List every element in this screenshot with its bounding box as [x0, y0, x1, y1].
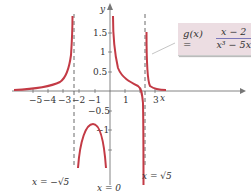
asymptote-label-neg: x = −√5	[32, 177, 70, 187]
y-axis-label: y	[99, 4, 106, 14]
asymptote-label-pos: x = √5	[142, 171, 172, 181]
x-axis-arrow-icon	[240, 88, 246, 94]
x-tick-label: 3	[153, 95, 159, 105]
formula-denominator: x³ − 5x	[216, 39, 251, 51]
y-tick-label: 0.5	[93, 67, 108, 77]
x-tick-label: −5	[29, 95, 43, 105]
y-tick-label: −0.5	[88, 106, 110, 116]
y-axis-arrow-icon	[107, 3, 113, 10]
formula-lhs: g(x) =	[183, 28, 210, 50]
y-tick-label: 1	[100, 47, 106, 57]
asymptote-label-zero: x = 0	[97, 183, 121, 192]
formula-fraction: x − 2 x³ − 5x	[216, 26, 251, 51]
formula-leader-line	[152, 43, 175, 54]
function-formula: g(x) = x − 2 x³ − 5x	[183, 26, 251, 51]
x-tick-label: −1	[88, 95, 101, 105]
x-tick-label: −3	[58, 95, 72, 105]
formula-numerator: x − 2	[221, 26, 246, 38]
curve-branch-right	[147, 32, 167, 90]
curve-branch-left	[14, 16, 73, 90]
x-axis-label: x	[160, 93, 165, 103]
x-tick-label: 1	[123, 95, 129, 105]
y-tick-label: 1.5	[93, 28, 108, 38]
x-tick-label: −4	[43, 95, 57, 105]
